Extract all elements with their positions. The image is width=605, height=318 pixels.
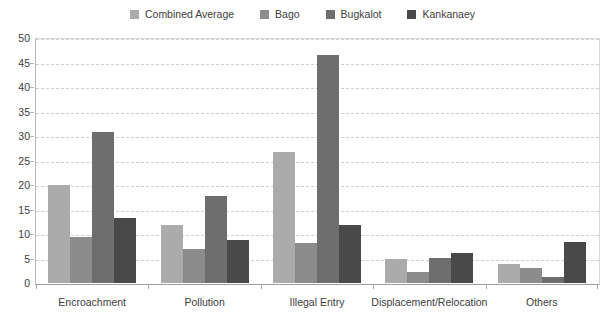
- bar-2-1[interactable]: [295, 243, 317, 283]
- x-axis: EncroachmentPollutionIllegal EntryDispla…: [36, 284, 598, 318]
- legend-item-2[interactable]: Bugkalot: [326, 9, 382, 19]
- bar-1-1[interactable]: [183, 249, 205, 283]
- bar-4-3[interactable]: [564, 242, 586, 283]
- y-tick-label-15: 15: [0, 205, 30, 215]
- bar-chart: Combined AverageBagoBugkalotKankanaey 50…: [0, 0, 605, 318]
- y-tick-label-30: 30: [0, 131, 30, 141]
- y-tick-label-40: 40: [0, 82, 30, 92]
- x-tick-mark-1: [148, 284, 149, 289]
- bar-0-0[interactable]: [48, 185, 70, 283]
- bars-layer: [36, 38, 598, 283]
- x-category-label-3: Displacement/Relocation: [371, 297, 487, 308]
- y-tick-mark-40: [30, 87, 34, 88]
- legend-item-label: Kankanaey: [422, 9, 475, 19]
- chart-legend: Combined AverageBagoBugkalotKankanaey: [0, 4, 605, 24]
- x-tick-mark-5: [597, 284, 598, 289]
- y-tick-label-20: 20: [0, 180, 30, 190]
- legend-swatch-bago: [260, 10, 269, 19]
- bar-3-3[interactable]: [451, 253, 473, 283]
- legend-item-1[interactable]: Bago: [260, 9, 300, 19]
- legend-swatch-kankanaey: [407, 10, 416, 19]
- y-axis: 50454035302520151050: [0, 38, 30, 284]
- legend-item-3[interactable]: Kankanaey: [407, 9, 475, 19]
- legend-item-label: Bugkalot: [341, 9, 382, 19]
- bar-4-2[interactable]: [542, 277, 564, 283]
- legend-item-label: Combined Average: [145, 9, 234, 19]
- x-tick-mark-4: [486, 284, 487, 289]
- bar-3-1[interactable]: [407, 272, 429, 283]
- x-tick-mark-2: [261, 284, 262, 289]
- y-tick-mark-20: [30, 185, 34, 186]
- bar-1-2[interactable]: [205, 196, 227, 283]
- y-tick-label-0: 0: [0, 278, 30, 288]
- bar-0-3[interactable]: [114, 218, 136, 283]
- bar-3-2[interactable]: [429, 258, 451, 283]
- y-tick-mark-5: [30, 259, 34, 260]
- legend-item-0[interactable]: Combined Average: [130, 9, 234, 19]
- x-tick-mark-3: [373, 284, 374, 289]
- bar-group-2: [273, 38, 361, 283]
- x-category-label-4: Others: [526, 297, 558, 308]
- legend-swatch-combined-average: [130, 10, 139, 19]
- bar-1-3[interactable]: [227, 240, 249, 283]
- y-tick-mark-30: [30, 136, 34, 137]
- bar-group-0: [48, 38, 136, 283]
- bar-2-0[interactable]: [273, 152, 295, 283]
- y-tick-mark-25: [30, 161, 34, 162]
- y-tick-label-45: 45: [0, 58, 30, 68]
- bar-0-1[interactable]: [70, 237, 92, 283]
- y-tick-label-50: 50: [0, 33, 30, 43]
- bar-0-2[interactable]: [92, 132, 114, 283]
- y-tick-label-5: 5: [0, 254, 30, 264]
- y-tick-label-10: 10: [0, 229, 30, 239]
- x-category-label-2: Illegal Entry: [290, 297, 345, 308]
- bar-group-3: [385, 38, 473, 283]
- x-tick-mark-0: [36, 284, 37, 289]
- bar-1-0[interactable]: [161, 225, 183, 283]
- y-tick-label-25: 25: [0, 156, 30, 166]
- bar-group-4: [498, 38, 586, 283]
- bar-2-3[interactable]: [339, 225, 361, 283]
- y-tick-mark-45: [30, 63, 34, 64]
- bar-3-0[interactable]: [385, 259, 407, 283]
- y-tick-mark-10: [30, 234, 34, 235]
- legend-swatch-bugkalot: [326, 10, 335, 19]
- x-category-label-0: Encroachment: [58, 297, 126, 308]
- y-tick-mark-15: [30, 210, 34, 211]
- x-category-label-1: Pollution: [184, 297, 224, 308]
- y-tick-label-35: 35: [0, 107, 30, 117]
- bar-2-2[interactable]: [317, 55, 339, 283]
- y-tick-mark-35: [30, 112, 34, 113]
- bar-4-0[interactable]: [498, 264, 520, 283]
- legend-item-label: Bago: [275, 9, 300, 19]
- bar-4-1[interactable]: [520, 268, 542, 283]
- bar-group-1: [161, 38, 249, 283]
